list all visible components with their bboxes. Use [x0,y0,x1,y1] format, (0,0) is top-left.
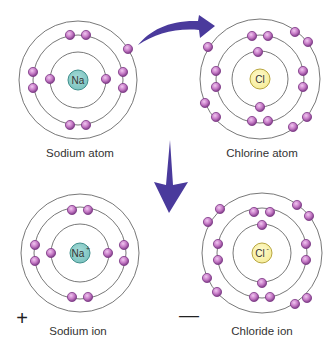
electron [119,240,128,249]
electron [211,66,220,75]
electron [292,200,301,209]
electron [65,30,74,39]
chlorine-atom: Cl [200,19,320,139]
electron [118,67,127,76]
electron [212,287,221,296]
electron [103,248,112,257]
sodium-ion-label: Sodium ion [49,326,107,338]
electron [215,204,224,213]
electron [301,239,310,248]
chloride-ion: Cl- [202,193,322,313]
electron [203,217,212,226]
electron [119,256,128,265]
ion-charge-superscript: + [86,245,90,252]
electron [213,255,222,264]
electron [67,205,76,214]
electron [304,211,313,220]
electron [302,293,311,302]
electron [123,44,132,53]
electron [83,292,92,301]
electron [301,255,310,264]
element-symbol: Na [72,75,85,86]
electron [30,240,39,249]
electron [81,30,90,39]
sodium-atom: Na [19,21,137,139]
electron [213,239,222,248]
electron [298,66,307,75]
electron [263,116,272,125]
electron [28,83,37,92]
electron [67,292,76,301]
electron [81,120,90,129]
electron [118,83,127,92]
electron [265,207,274,216]
electron [265,292,274,301]
chlorine-atom-label: Chlorine atom [226,148,298,160]
electron [83,205,92,214]
electron [28,67,37,76]
electron [257,278,266,287]
electron [211,112,220,121]
electron [302,112,311,121]
electron [247,116,256,125]
electron [65,120,74,129]
electron [303,37,312,46]
element-symbol: Cl [255,248,264,259]
electron [249,292,258,301]
ionic-bond-diagram: NaClNa+Cl- [0,0,335,348]
element-symbol: Na [72,248,85,259]
electron [290,27,299,36]
electron [203,42,212,51]
electron [46,248,55,257]
electron [263,31,272,40]
element-symbol: Cl [255,74,264,85]
down-arrow-icon [154,140,188,213]
electron [290,299,299,308]
electron [288,122,297,131]
electron [200,98,209,107]
electron [255,102,264,111]
electron [211,82,220,91]
electron [253,47,262,56]
electron [202,273,211,282]
electron [247,31,256,40]
chloride-ion-label: Chloride ion [231,326,292,338]
electron [30,256,39,265]
curved-transfer-arrow-icon [138,15,215,45]
electron [101,74,110,83]
electron [298,82,307,91]
sodium-ion: Na+ [21,194,139,312]
electron [257,220,266,229]
positive-charge-icon: + [16,308,28,328]
negative-charge-icon: — [179,305,199,325]
electron [249,207,258,216]
electron [45,74,54,83]
sodium-atom-label: Sodium atom [46,148,114,160]
